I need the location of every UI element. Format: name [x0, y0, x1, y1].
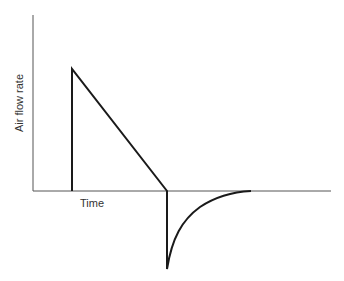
x-axis-label: Time [80, 197, 104, 209]
y-axis-label: Air flow rate [13, 61, 27, 145]
airflow-chart [0, 0, 344, 281]
airflow-line [72, 69, 251, 269]
